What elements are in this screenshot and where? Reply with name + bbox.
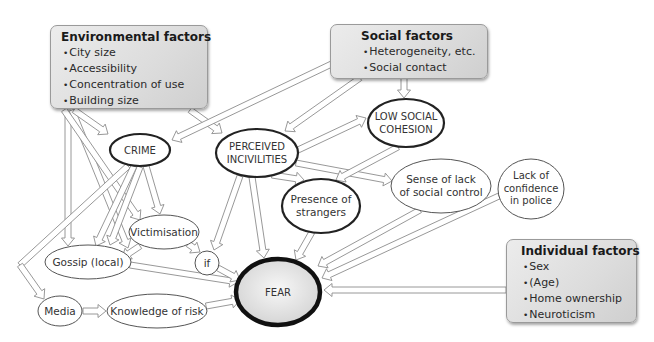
arrow	[297, 116, 366, 153]
arrow	[143, 165, 164, 214]
env-item: Accessibility	[63, 61, 199, 77]
individual-item: (Age)	[523, 275, 628, 291]
individual-factors-title: Individual factors	[521, 243, 628, 259]
arrow	[130, 262, 239, 287]
env-item: City size	[63, 45, 199, 61]
media-label: Media	[44, 305, 76, 318]
arrow	[324, 284, 506, 297]
arrow	[398, 78, 411, 98]
arrow	[18, 263, 45, 299]
if-label: if	[204, 257, 211, 270]
individual-item: Sex	[523, 259, 628, 275]
fear-label: FEAR	[265, 286, 291, 299]
knowledge-label: Knowledge of risk	[110, 305, 203, 318]
police-label: Lack ofconfidencein police	[504, 170, 559, 208]
arrow	[83, 305, 106, 318]
arrow	[211, 175, 243, 250]
environmental-factors-box: Environmental factors City size Accessib…	[50, 25, 208, 109]
individual-factors-box: Individual factors Sex (Age) Home owners…	[506, 239, 637, 323]
individual-item: Home ownership	[523, 291, 628, 307]
social-item: Heterogeneity, etc.	[363, 44, 479, 60]
incivilities-label: PERCEIVEDINCIVILITIES	[227, 140, 287, 166]
victimisation-label: Victimisation	[130, 226, 198, 239]
gossip-label: Gossip (local)	[52, 256, 123, 269]
cohesion-label: LOW SOCIALCOHESION	[375, 110, 438, 136]
crime-label: CRIME	[124, 144, 156, 157]
social-factors-box: Social factors Heterogeneity, etc. Socia…	[330, 24, 488, 79]
environmental-factors-title: Environmental factors	[61, 29, 199, 45]
social-item: Social contact	[363, 60, 479, 76]
env-item: Building size	[63, 93, 199, 109]
env-item: Concentration of use	[63, 77, 199, 93]
individual-item: Neuroticism	[523, 307, 628, 323]
social-control-label: Sense of lackof social control	[399, 173, 482, 199]
arrow	[294, 231, 314, 261]
arrow	[249, 177, 269, 258]
strangers-label: Presence ofstrangers	[291, 193, 352, 219]
social-factors-title: Social factors	[361, 28, 479, 44]
